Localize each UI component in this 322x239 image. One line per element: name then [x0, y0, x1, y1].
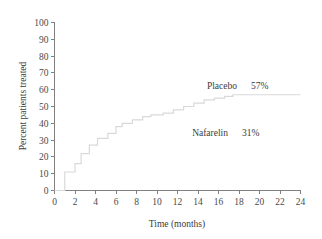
- x-tick-label: 8: [134, 197, 139, 207]
- y-tick-label: 40: [39, 119, 49, 129]
- x-tick-label: 12: [173, 197, 183, 207]
- x-tick-label: 18: [234, 197, 244, 207]
- y-tick-label: 20: [39, 152, 49, 162]
- chart-annotations: Placebo57%Nafarelin31%: [192, 81, 268, 138]
- x-tick-label: 16: [214, 197, 224, 207]
- x-axis-title: Time (months): [149, 219, 205, 230]
- x-tick-label: 10: [152, 197, 162, 207]
- x-tick-label: 20: [255, 197, 265, 207]
- annotation-label-nafarelin: Nafarelin: [192, 128, 228, 138]
- y-tick-label: 80: [39, 52, 49, 62]
- x-tick-label: 24: [296, 197, 306, 207]
- chart-canvas: Percent patients treated 010203040506070…: [0, 0, 322, 239]
- y-tick-label: 70: [39, 68, 49, 78]
- annotation-value-nafarelin: 31%: [242, 128, 260, 138]
- x-axis-ticks: 024681012141618202224: [52, 191, 305, 207]
- y-tick-label: 0: [44, 186, 49, 196]
- annotation-label-placebo: Placebo: [207, 81, 237, 91]
- y-tick-label: 10: [39, 169, 49, 179]
- x-tick-label: 2: [73, 197, 78, 207]
- x-tick-label: 4: [93, 197, 98, 207]
- x-tick-label: 0: [52, 197, 57, 207]
- y-tick-label: 60: [39, 85, 49, 95]
- y-axis-title: Percent patients treated: [18, 61, 28, 150]
- survival-step-chart: Percent patients treated 010203040506070…: [0, 0, 322, 239]
- y-tick-label: 30: [39, 136, 49, 146]
- y-axis-ticks: 0102030405060708090100: [34, 18, 54, 196]
- annotation-value-placebo: 57%: [251, 81, 269, 91]
- x-tick-label: 22: [275, 197, 285, 207]
- y-tick-label: 50: [39, 102, 49, 112]
- y-tick-label: 90: [39, 35, 49, 45]
- y-tick-label: 100: [34, 18, 49, 28]
- placebo-step-curve: [55, 95, 301, 191]
- x-tick-label: 14: [193, 197, 203, 207]
- x-tick-label: 6: [114, 197, 119, 207]
